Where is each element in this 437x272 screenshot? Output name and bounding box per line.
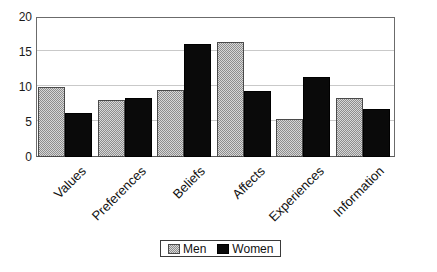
- bar-chart: 05101520 ValuesPreferencesBeliefsAffects…: [0, 0, 437, 272]
- x-label-information: Information: [331, 164, 387, 220]
- legend-label: Women: [232, 243, 273, 255]
- chart-legend: MenWomen: [160, 240, 281, 257]
- x-label-preferences: Preferences: [89, 164, 148, 223]
- x-label-experiences: Experiences: [266, 164, 326, 224]
- x-axis-category-labels: ValuesPreferencesBeliefsAffectsExperienc…: [0, 0, 437, 272]
- legend-entry-women: Women: [217, 243, 273, 255]
- legend-label: Men: [183, 243, 206, 255]
- legend-entry-men: Men: [168, 243, 206, 255]
- men-swatch-icon: [168, 244, 180, 254]
- x-label-affects: Affects: [230, 164, 268, 202]
- women-swatch-icon: [217, 244, 229, 254]
- x-label-beliefs: Beliefs: [170, 164, 207, 201]
- x-label-values: Values: [52, 164, 89, 201]
